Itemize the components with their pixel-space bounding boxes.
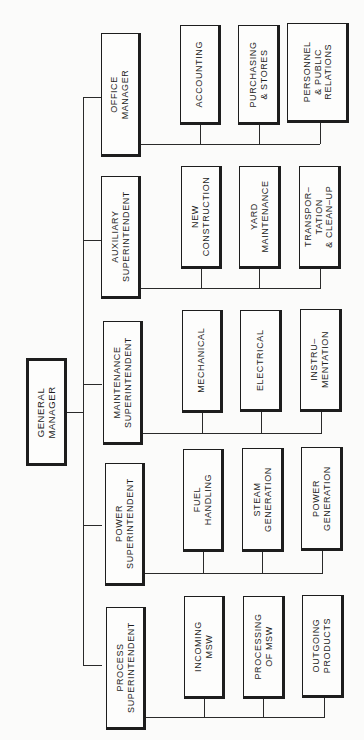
yard-maintenance-box: YARD MAINTENANCE (239, 166, 281, 269)
drop (320, 268, 321, 288)
auxiliary-superintendent-box: AUXILIARY SUPERINTENDENT (101, 176, 141, 299)
yard-maintenance-label: YARD MAINTENANCE (249, 180, 270, 252)
electrical-box: ELECTRICAL (240, 310, 282, 412)
instrumentation-label: INSTRU– MENTATION (310, 331, 331, 388)
drop (204, 698, 205, 717)
drop (321, 411, 322, 433)
drop (262, 552, 263, 573)
branch-power (83, 525, 102, 526)
drop (200, 124, 201, 144)
gm-connector (66, 412, 84, 413)
drop (324, 697, 325, 717)
power-generation-box: POWER GENERATION (301, 447, 343, 551)
branch-office (83, 97, 102, 98)
accounting-label: ACCOUNTING (194, 41, 205, 108)
office-manager-box: OFFICE MANAGER (101, 33, 141, 157)
fuel-handling-label: FUEL HANDLING (192, 474, 213, 525)
branch-auxiliary (83, 240, 102, 241)
drop (322, 551, 323, 573)
branch-maintenance (83, 384, 102, 385)
maintenance-superintendent-box: MAINTENANCE SUPERINTENDENT (103, 321, 143, 445)
steam-generation-label: STEAM GENERATION (252, 467, 273, 532)
maintenance-superintendent-label: MAINTENANCE SUPERINTENDENT (112, 337, 133, 428)
bus-office (141, 144, 320, 145)
bus-maintenance (141, 433, 322, 434)
processing-msw-label: PROCESSING OF MSW (253, 613, 274, 679)
transportation-cleanup-box: TRANSPOR– TATION & CLEAN–UP (299, 166, 341, 269)
drop (259, 268, 260, 288)
fuel-handling-box: FUEL HANDLING (183, 449, 224, 552)
new-construction-label: NEW CONSTRUCTION (190, 177, 211, 257)
outgoing-products-label: OUTGOING PRODUCTS (312, 618, 333, 673)
drop (202, 413, 203, 433)
outgoing-products-box: OUTGOING PRODUCTS (302, 595, 344, 698)
general-manager-label: GENERAL MANAGER (36, 386, 57, 438)
drop (203, 552, 204, 573)
personnel-public-relations-box: PERSONNEL & PUBLIC RELATIONS (287, 23, 349, 123)
branch-process (83, 665, 102, 666)
drop (201, 268, 202, 288)
auxiliary-superintendent-label: AUXILIARY SUPERINTENDENT (110, 191, 131, 282)
process-superintendent-label: PROCESS SUPERINTENDENT (115, 622, 136, 713)
drop (263, 698, 264, 717)
drop (320, 122, 321, 144)
personnel-public-relations-label: PERSONNEL & PUBLIC RELATIONS (301, 42, 333, 103)
purchasing-stores-label: PURCHASING & STORES (248, 41, 269, 107)
mechanical-box: MECHANICAL (182, 310, 223, 413)
instrumentation-box: INSTRU– MENTATION (300, 309, 342, 412)
accounting-box: ACCOUNTING (180, 25, 221, 125)
trunk-line (83, 97, 84, 666)
transportation-cleanup-label: TRANSPOR– TATION & CLEAN–UP (303, 185, 335, 247)
incoming-msw-box: INCOMING MSW (184, 596, 225, 699)
bus-power (143, 573, 323, 574)
power-generation-label: POWER GENERATION (311, 466, 332, 531)
power-superintendent-label: POWER SUPERINTENDENT (114, 478, 135, 569)
new-construction-box: NEW CONSTRUCTION (181, 166, 222, 269)
processing-msw-box: PROCESSING OF MSW (243, 596, 285, 699)
incoming-msw-label: INCOMING MSW (193, 621, 214, 672)
drop (259, 124, 260, 144)
mechanical-label: MECHANICAL (196, 328, 207, 393)
drop (261, 412, 262, 433)
purchasing-stores-box: PURCHASING & STORES (238, 25, 280, 125)
general-manager-box: GENERAL MANAGER (26, 358, 67, 466)
bus-process (145, 717, 325, 718)
bus-auxiliary (141, 288, 321, 289)
office-manager-label: OFFICE MANAGER (110, 69, 131, 119)
power-superintendent-box: POWER SUPERINTENDENT (105, 463, 145, 586)
process-superintendent-box: PROCESS SUPERINTENDENT (106, 607, 146, 730)
electrical-label: ELECTRICAL (255, 329, 266, 391)
steam-generation-box: STEAM GENERATION (242, 448, 284, 552)
